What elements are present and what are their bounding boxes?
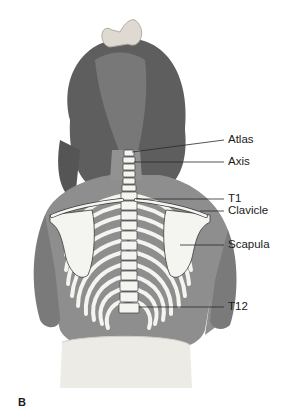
panel-letter: B bbox=[18, 396, 26, 408]
label-axis: Axis bbox=[228, 156, 250, 168]
hair-bow bbox=[102, 20, 142, 47]
label-t12: T12 bbox=[228, 301, 248, 313]
label-clavicle: Clavicle bbox=[228, 205, 268, 217]
label-scapula: Scapula bbox=[228, 239, 270, 251]
label-atlas: Atlas bbox=[228, 134, 254, 146]
diaper bbox=[60, 336, 192, 388]
label-t1: T1 bbox=[228, 193, 241, 205]
